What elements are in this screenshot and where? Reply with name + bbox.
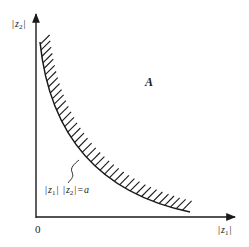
hatch-stroke [47,72,56,81]
hatch-stroke [78,138,87,147]
hatch-stroke [68,123,77,132]
hatch-stroke [59,106,68,115]
hatch-stroke [45,65,54,74]
hatch-stroke [105,165,114,174]
hatch-stroke [100,161,109,170]
hatch-stroke [75,133,84,142]
hatch-stroke [165,196,174,205]
hatch-stroke [86,148,95,157]
hatch-stroke [147,190,156,199]
y-axis-label: |z2| [12,18,25,31]
hatch-stroke [48,78,57,87]
hatch-stroke [71,128,80,137]
hatch-stroke [82,143,91,152]
hatch-stroke [159,194,168,203]
hyperbola-diagram: |z2| |z1| 0 A |z1| |z2|=a [0,0,249,247]
hatch-stroke [109,168,118,177]
hatch-stroke [130,182,139,191]
hatch-stroke [170,198,179,207]
hatch-stroke [57,101,66,110]
hatch-stroke [136,185,145,194]
hatch-stroke [120,175,129,184]
hatch-stroke [95,157,104,166]
hatch-stroke [91,153,100,162]
x-axis-label: |z1| [218,224,231,237]
hatch-stroke [114,172,123,181]
region-label: A [144,75,153,89]
origin-label: 0 [35,223,41,235]
hatch-stroke [153,192,162,201]
curve-equation-label: |z1| |z2|=a [45,184,89,197]
hatch-stroke [142,187,151,196]
hatch-stroke [182,201,191,210]
hatch-stroke [50,84,59,93]
hatch-stroke [65,117,74,126]
hatch-stroke [176,199,185,208]
hatch-stroke [125,179,134,188]
curve-leader-line [68,160,79,183]
hatch-stroke [62,112,71,121]
